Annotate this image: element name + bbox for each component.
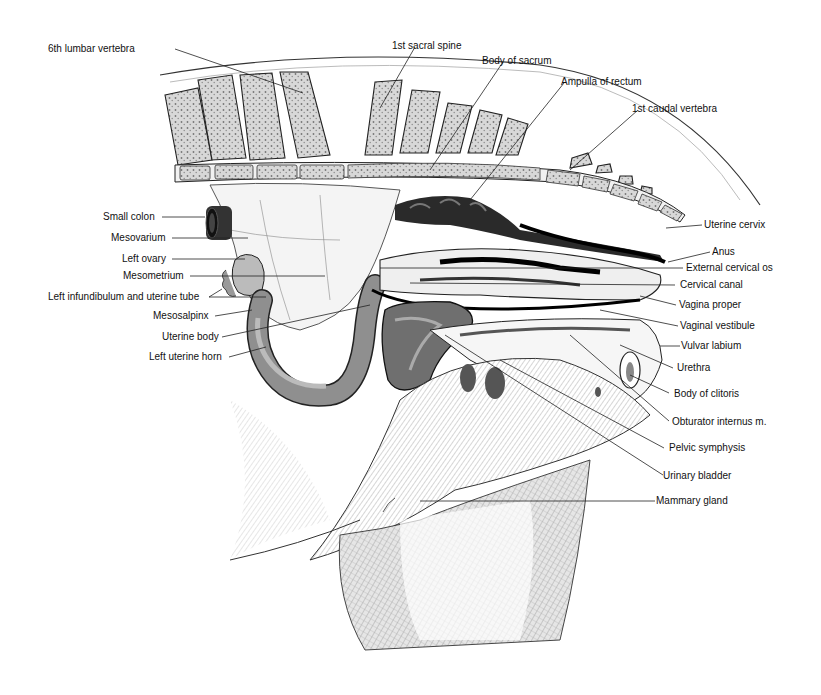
label-external-cervical-os: External cervical os	[686, 262, 773, 274]
label-1st-caudal-vertebra: 1st caudal vertebra	[632, 103, 717, 115]
label-ampulla-of-rectum: Ampulla of rectum	[561, 76, 642, 88]
label-mesometrium: Mesometrium	[123, 270, 184, 282]
small-colon	[206, 206, 232, 240]
label-left-uterine-horn: Left uterine horn	[149, 351, 222, 363]
label-left-infundibulum-uterine-tube: Left infundibulum and uterine tube	[48, 291, 199, 303]
label-obturator-internus: Obturator internus m.	[672, 416, 766, 428]
label-mesosalpinx: Mesosalpinx	[153, 310, 209, 322]
label-mesovarium: Mesovarium	[111, 232, 165, 244]
label-1st-sacral-spine: 1st sacral spine	[392, 40, 461, 52]
label-pelvic-symphysis: Pelvic symphysis	[669, 442, 745, 454]
label-uterine-cervix: Uterine cervix	[704, 219, 765, 231]
label-mammary-gland: Mammary gland	[656, 495, 728, 507]
label-body-of-sacrum: Body of sacrum	[482, 55, 551, 67]
label-small-colon: Small colon	[103, 211, 155, 223]
label-vagina-proper: Vagina proper	[679, 299, 741, 311]
label-vulvar-labium: Vulvar labium	[681, 340, 741, 352]
label-urinary-bladder: Urinary bladder	[663, 470, 731, 482]
label-anus: Anus	[712, 246, 735, 258]
anatomy-diagram: 6th lumbar vertebra 1st sacral spine Bod…	[0, 0, 821, 695]
label-vaginal-vestibule: Vaginal vestibule	[680, 320, 755, 332]
label-cervical-canal: Cervical canal	[680, 279, 743, 291]
label-left-ovary: Left ovary	[122, 253, 166, 265]
label-body-of-clitoris: Body of clitoris	[674, 388, 739, 400]
label-urethra: Urethra	[677, 362, 710, 374]
label-6th-lumbar-vertebra: 6th lumbar vertebra	[48, 43, 135, 55]
label-uterine-body: Uterine body	[162, 331, 219, 343]
